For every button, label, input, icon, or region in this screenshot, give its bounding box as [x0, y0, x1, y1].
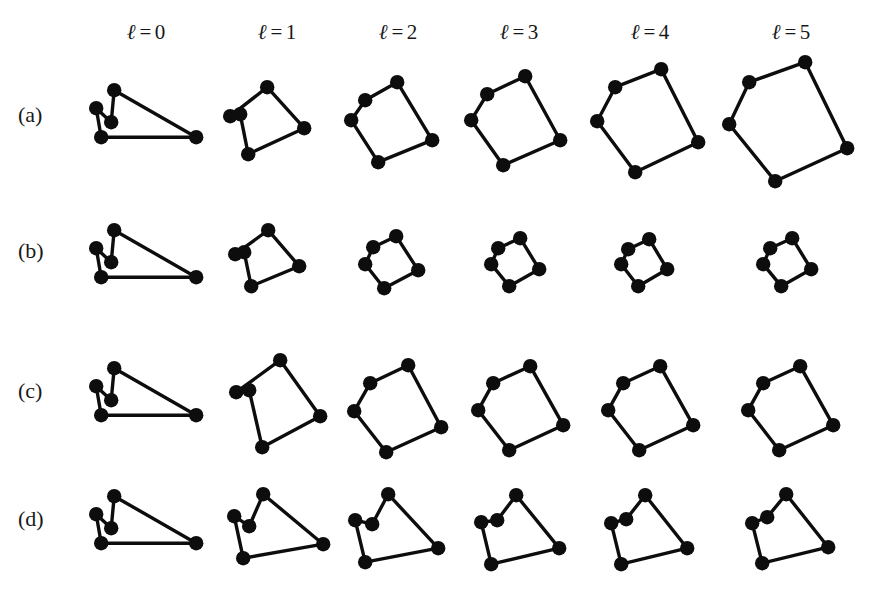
column-header-equals: = [641, 20, 659, 44]
graph-node [632, 443, 646, 457]
graph-node [614, 257, 628, 271]
graph-node [104, 521, 118, 535]
graph-node [763, 241, 777, 255]
graph-node [313, 409, 327, 423]
graph-edges [96, 368, 196, 415]
graph-node [496, 158, 510, 172]
graph-edge [660, 366, 693, 425]
graph-node [774, 279, 788, 293]
graph-node [471, 403, 485, 417]
graph-edge [243, 544, 323, 558]
graph-node [680, 541, 694, 555]
graph-node [745, 516, 759, 530]
graph-node [628, 165, 642, 179]
column-header-value: 4 [659, 20, 670, 44]
graph-node [358, 93, 372, 107]
graph-node [638, 488, 652, 502]
column-header-equals: = [268, 20, 286, 44]
graph-edge [762, 547, 828, 563]
graph-node [608, 80, 622, 94]
graph-edge [509, 425, 563, 450]
graph-nodes [464, 69, 567, 172]
graph-node [236, 551, 250, 565]
graph-node [401, 358, 415, 372]
graph-node [260, 80, 274, 94]
graph-node [189, 536, 203, 550]
column-header-value: 2 [407, 20, 418, 44]
graph-panel-b-l3 [475, 221, 555, 301]
graph-node [742, 75, 756, 89]
graph-edges [96, 230, 196, 277]
graph-edges [752, 494, 828, 563]
graph-edge [351, 120, 378, 162]
graph-node [755, 556, 769, 570]
graph-node [686, 418, 700, 432]
graph-edge [729, 124, 775, 181]
graph-panel-d-l0 [75, 477, 218, 579]
graph-node [261, 223, 275, 237]
graph-node [804, 262, 818, 276]
graph-node [616, 376, 630, 390]
graph-edge [249, 390, 262, 447]
graph-node [363, 376, 377, 390]
graph-node [411, 263, 425, 277]
column-header-value: 3 [528, 20, 539, 44]
graph-panel-d-l5 [733, 478, 849, 580]
graph-node [631, 279, 645, 293]
graph-node [590, 114, 604, 128]
graph-panel-c-l1 [213, 343, 343, 465]
graph-node [94, 270, 108, 284]
row-label-b: (b) [18, 240, 44, 262]
graph-node [474, 515, 488, 529]
graph-node [642, 232, 656, 246]
graph-panel-c-l3 [461, 347, 583, 465]
graph-edge [478, 410, 509, 450]
graph-edge [748, 410, 779, 450]
graph-node [772, 443, 786, 457]
graph-node [379, 445, 393, 459]
graph-edge [608, 410, 639, 450]
graph-node [297, 121, 311, 135]
graph-panel-a-l3 [454, 55, 582, 183]
graph-node [619, 512, 633, 526]
graph-node [490, 513, 504, 527]
graph-node [793, 359, 807, 373]
figure-canvas: ℓ=0ℓ=1ℓ=2ℓ=3ℓ=4ℓ=5 (a)(b)(c)(d) [0, 0, 889, 589]
graph-node [273, 353, 287, 367]
graph-node [621, 242, 635, 256]
graph-node [89, 507, 103, 521]
graph-edge [397, 82, 432, 140]
graph-node [104, 115, 118, 129]
graph-nodes [756, 231, 818, 293]
graph-edge [525, 76, 560, 140]
graph-node [94, 536, 108, 550]
graph-edge [386, 427, 441, 452]
graph-node [104, 393, 118, 407]
graph-node [491, 241, 505, 255]
graph-node [256, 487, 270, 501]
graph-edge [263, 494, 323, 544]
graph-node [189, 270, 203, 284]
row-label-c: (c) [18, 380, 42, 402]
graph-nodes [89, 361, 203, 422]
graph-edge [114, 90, 196, 137]
graph-edge [615, 69, 661, 87]
graph-node [358, 257, 372, 271]
graph-node [94, 408, 108, 422]
graph-nodes [89, 83, 203, 144]
graph-node [228, 247, 242, 261]
graph-panel-d-l4 [592, 479, 708, 581]
graph-node [552, 541, 566, 555]
graph-node [484, 257, 498, 271]
graph-panel-a-l1 [213, 69, 331, 177]
graph-node [255, 440, 269, 454]
graph-node [464, 113, 478, 127]
graph-node [768, 174, 782, 188]
column-header-equals: = [510, 20, 528, 44]
graph-panel-d-l3 [462, 479, 580, 581]
graph-edge [248, 128, 304, 154]
graph-edge [749, 62, 805, 82]
graph-panel-c-l5 [731, 347, 853, 465]
graph-node [366, 240, 380, 254]
graph-node [660, 262, 674, 276]
